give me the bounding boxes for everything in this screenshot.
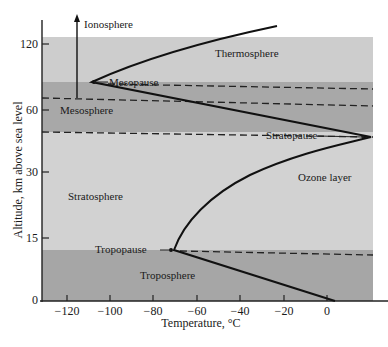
x-tick-label: −100 [98, 304, 123, 318]
stratopause-label: Stratopause [266, 129, 317, 141]
thermosphere-label: Thermosphere [215, 47, 279, 59]
x-axis-label: Temperature, °C [161, 316, 240, 330]
ionosphere-label: Ionosphere [84, 18, 133, 30]
y-tick-label: 120 [20, 37, 38, 51]
x-tick-label: −120 [55, 304, 80, 318]
arrow-head-icon [74, 14, 80, 22]
y-tick-label: 60 [26, 103, 38, 117]
thermosphere-band [42, 37, 373, 82]
troposphere-band [42, 250, 373, 301]
y-tick-label: 0 [32, 293, 38, 307]
mesosphere-label: Mesosphere [60, 104, 113, 116]
tropopause-label: Tropopause [95, 243, 147, 255]
atmosphere-diagram: 120 60 30 15 0 −120 −100 −80 −60 −40 −20… [0, 0, 388, 347]
mesopause-label: Mesopause [109, 76, 159, 88]
y-axis-label: Altitude, km above sea level [11, 101, 25, 239]
x-tick-label: 0 [324, 304, 330, 318]
stratosphere-label: Stratosphere [68, 190, 123, 202]
x-tick-label: −80 [144, 304, 163, 318]
troposphere-label: Troposphere [140, 269, 195, 281]
y-tick-label: 30 [26, 165, 38, 179]
ozone-layer-label: Ozone layer [298, 171, 352, 183]
x-tick-label: −20 [275, 304, 294, 318]
y-tick-label: 15 [26, 231, 38, 245]
